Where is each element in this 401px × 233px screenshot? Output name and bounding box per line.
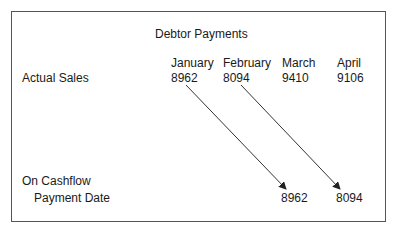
arrow-january-to-march	[186, 85, 286, 189]
arrow-february-to-april	[241, 85, 340, 189]
payment-arrows	[0, 0, 401, 233]
